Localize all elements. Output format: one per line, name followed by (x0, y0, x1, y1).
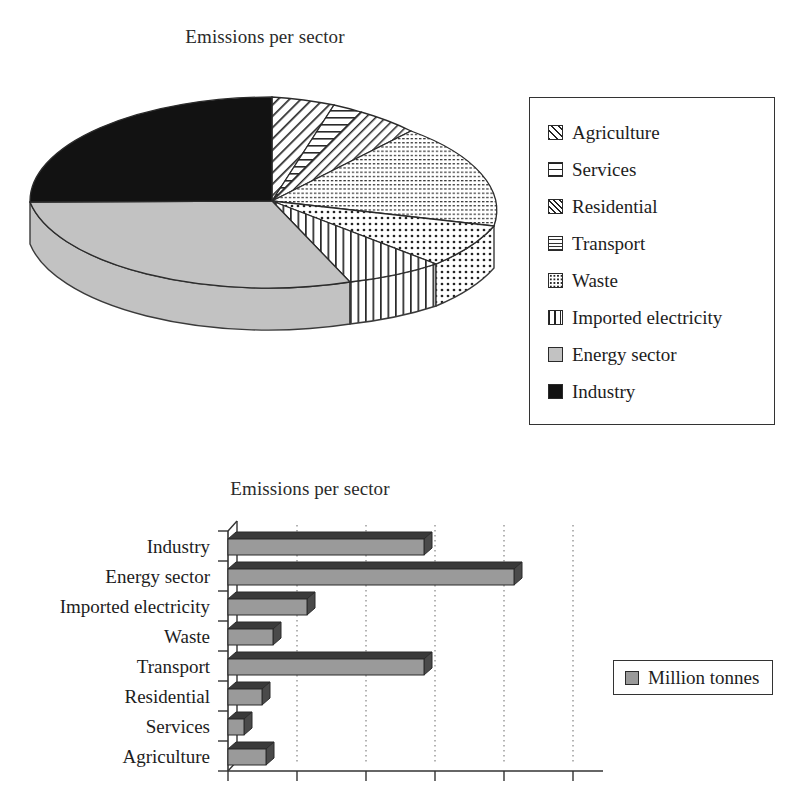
agriculture-swatch-icon (548, 125, 563, 140)
bar-transport (228, 652, 432, 675)
pie-chart-legend: Agriculture Services Residential Transpo… (529, 97, 775, 425)
imported-electricity-swatch-icon (548, 310, 563, 325)
million-tonnes-swatch-icon (625, 671, 639, 685)
legend-label: Energy sector (572, 345, 677, 364)
legend-item-services: Services (548, 151, 774, 188)
legend-item-agriculture: Agriculture (548, 114, 774, 151)
industry-swatch-icon (548, 384, 563, 399)
category-label-transport: Transport (137, 656, 211, 677)
category-label-residential: Residential (125, 686, 210, 707)
legend-item-residential: Residential (548, 188, 774, 225)
legend-item-waste: Waste (548, 262, 774, 299)
legend-label: Waste (572, 271, 618, 290)
residential-swatch-icon (548, 199, 563, 214)
legend-label: Services (572, 160, 636, 179)
category-label-services: Services (146, 716, 210, 737)
category-label-energy-sector: Energy sector (105, 566, 210, 587)
bar-chart-legend: Million tonnes (613, 660, 773, 695)
category-label-agriculture: Agriculture (122, 746, 210, 767)
bar-chart-axes (218, 521, 603, 781)
pie-chart-section: Emissions per sector (0, 0, 807, 455)
legend-label: Agriculture (572, 123, 660, 142)
legend-label: Transport (572, 234, 645, 253)
pie-chart-graphic (20, 96, 520, 416)
legend-item-energy-sector: Energy sector (548, 336, 774, 373)
legend-label: Industry (572, 382, 635, 401)
legend-item-imported-electricity: Imported electricity (548, 299, 774, 336)
category-label-imported-electricity: Imported electricity (60, 596, 211, 617)
waste-swatch-icon (548, 273, 563, 288)
services-swatch-icon (548, 162, 563, 177)
legend-label: Million tonnes (648, 668, 759, 687)
bar-energy-sector (228, 562, 522, 585)
pie-slice-industry (30, 97, 272, 202)
transport-swatch-icon (548, 236, 563, 251)
bar-industry (228, 532, 432, 555)
category-label-industry: Industry (147, 536, 211, 557)
bar-residential (228, 682, 270, 705)
category-label-waste: Waste (164, 626, 210, 647)
bar-agriculture (228, 742, 274, 765)
legend-label: Imported electricity (572, 308, 722, 327)
energy-sector-swatch-icon (548, 347, 563, 362)
bar-waste (228, 622, 281, 645)
legend-label: Residential (572, 197, 657, 216)
bar-services (228, 712, 252, 735)
legend-item-transport: Transport (548, 225, 774, 262)
bar-chart-gridlines (297, 525, 573, 765)
bar-chart-title: Emissions per sector (10, 478, 610, 500)
pie-chart-title: Emissions per sector (0, 26, 530, 48)
bar-chart-graphic: Industry Energy sector Imported electric… (0, 503, 807, 805)
bar-imported-electricity (228, 592, 315, 615)
legend-item-industry: Industry (548, 373, 774, 410)
bar-chart-section: Emissions per sector (0, 455, 807, 805)
